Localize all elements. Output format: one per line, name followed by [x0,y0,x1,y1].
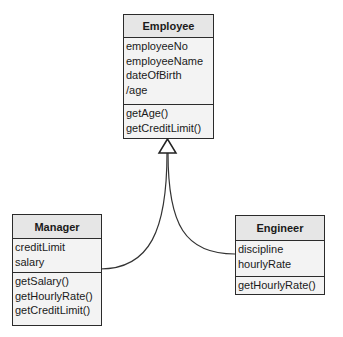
methods-section: getHourlyRate() [236,277,324,294]
attribute: dateOfBirth [126,68,211,83]
engineer-inheritance-line [168,153,235,254]
attributes-section: creditLimit salary [13,239,101,273]
methods-section: getAge() getCreditLimit() [124,105,213,136]
method: getSalary() [15,274,99,289]
attribute: employeeNo [126,39,211,54]
class-name: Engineer [236,216,324,241]
attribute: hourlyRate [238,257,322,272]
class-employee[interactable]: Employee employeeNo employeeName dateOfB… [123,14,214,139]
method: getAge() [126,106,211,121]
class-manager[interactable]: Manager creditLimit salary getSalary() g… [12,214,102,326]
class-name: Employee [124,15,213,38]
class-name: Manager [13,215,101,239]
attributes-section: employeeNo employeeName dateOfBirth /age [124,38,213,105]
attribute: employeeName [126,54,211,69]
class-engineer[interactable]: Engineer discipline hourlyRate getHourly… [235,215,325,295]
attribute: creditLimit [15,240,99,255]
generalization-arrow-icon [159,139,176,153]
method: getHourlyRate() [15,289,99,304]
manager-inheritance-line [100,153,167,269]
attribute: /age [126,83,211,98]
methods-section: getSalary() getHourlyRate() getCreditLim… [13,273,101,319]
method: getCreditLimit() [15,303,99,318]
attribute: salary [15,255,99,270]
attribute: discipline [238,242,322,257]
attributes-section: discipline hourlyRate [236,241,324,277]
method: getCreditLimit() [126,121,211,136]
method: getHourlyRate() [238,278,322,293]
